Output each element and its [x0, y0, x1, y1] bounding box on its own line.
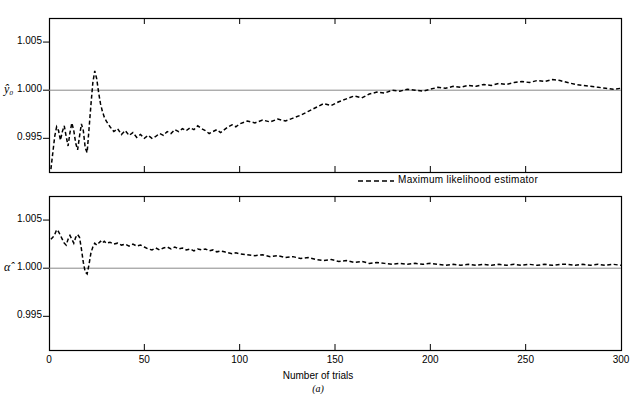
x-tick-label: 300 — [601, 354, 636, 365]
x-axis-title: Number of trials — [0, 370, 636, 381]
figure-container: 0.9951.0001.005ŷ₀0.9951.0001.005α̂050100… — [0, 0, 636, 394]
series-line-panel-alpha — [51, 230, 621, 274]
x-tick-label: 150 — [315, 354, 355, 365]
y-tick-label: 0.995 — [0, 131, 42, 142]
panel-frame-panel-y0 — [50, 19, 622, 173]
legend-label: Maximum likelihood estimator — [398, 174, 538, 185]
x-tick-label: 250 — [506, 354, 546, 365]
y-tick-label: 0.995 — [0, 309, 42, 320]
x-tick-label: 100 — [220, 354, 260, 365]
x-tick-label: 50 — [124, 354, 164, 365]
y-tick-label: 1.005 — [0, 213, 42, 224]
chart-canvas — [0, 0, 636, 394]
figure-caption: (a) — [0, 383, 636, 394]
x-tick-label: 0 — [29, 354, 69, 365]
x-tick-label: 200 — [410, 354, 450, 365]
series-line-panel-y0 — [51, 71, 621, 169]
y-axis-label-panel-alpha: α̂ — [4, 260, 10, 275]
y-axis-label-panel-y0: ŷ₀ — [4, 82, 14, 97]
y-tick-label: 1.005 — [0, 35, 42, 46]
panel-frame-panel-alpha — [50, 197, 622, 351]
